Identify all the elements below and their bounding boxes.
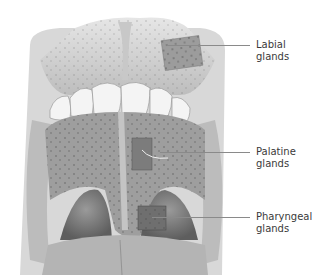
pharyngeal-leader-line <box>152 217 250 218</box>
label-palatine-glands: Palatine glands <box>256 146 296 170</box>
label-line: Palatine <box>256 146 296 158</box>
label-line: glands <box>256 223 312 235</box>
label-line: Pharyngeal <box>256 211 312 223</box>
label-line: glands <box>256 51 289 63</box>
label-pharyngeal-glands: Pharyngeal glands <box>256 211 312 235</box>
labial-leader-line <box>168 45 250 46</box>
label-line: Labial <box>256 39 289 51</box>
label-labial-glands: Labial glands <box>256 39 289 63</box>
palatine-leader-line <box>160 152 250 153</box>
label-line: glands <box>256 158 296 170</box>
